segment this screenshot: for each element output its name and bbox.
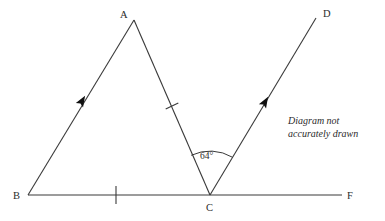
geometry-canvas: A B C D F 64° Diagram not accurately dra… <box>0 0 385 221</box>
arrow-on-BA <box>76 94 89 108</box>
vertex-label-c: C <box>206 202 213 213</box>
ray-CD <box>210 18 316 195</box>
geometry-diagram: A B C D F 64° Diagram not accurately dra… <box>0 0 385 221</box>
vertex-label-d: D <box>323 8 331 19</box>
vertex-label-f: F <box>347 190 353 201</box>
vertex-label-b: B <box>13 190 20 201</box>
not-to-scale-note-line2: accurately drawn <box>288 128 358 139</box>
vertex-label-a: A <box>120 9 128 20</box>
segment-AC <box>134 20 210 195</box>
not-to-scale-note-line1: Diagram not <box>287 115 340 126</box>
arrow-on-CD <box>259 95 272 109</box>
angle-measure-label: 64° <box>200 151 214 161</box>
segment-BA <box>28 20 134 195</box>
